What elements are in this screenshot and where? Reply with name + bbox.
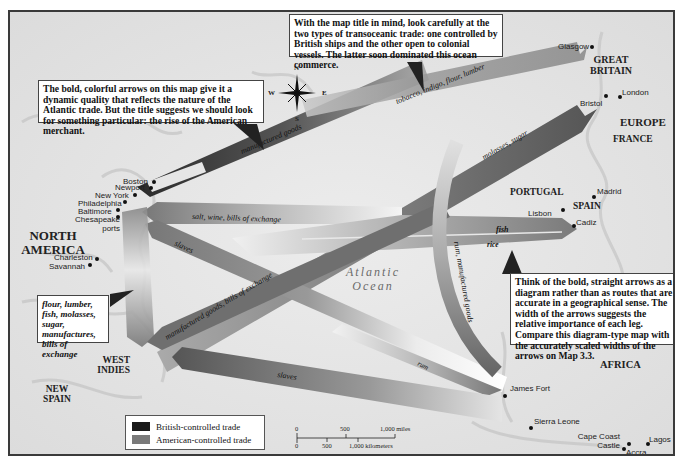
map-frame: manufactured goods tobacco, indigo, flou… — [8, 10, 675, 456]
compass-icon — [272, 68, 322, 118]
callout-right: Think of the bold, straight arrows as a … — [510, 273, 675, 345]
city-accra: Accra — [626, 448, 646, 456]
map-canvas: manufactured goods tobacco, indigo, flou… — [10, 12, 675, 456]
region-west-indies: West Indies — [82, 356, 130, 376]
legend-label-american: American-controlled trade — [156, 435, 251, 445]
compass-east-label: E — [322, 89, 327, 97]
city-james-fort: James Fort — [510, 384, 550, 393]
region-spain: Spain — [573, 202, 601, 212]
city-glasgow: Glasgow — [558, 42, 589, 51]
region-atlantic-ocean: Atlantic Ocean — [328, 265, 418, 293]
callout-west-indies-goods: flour, lumber, fish, molasses, sugar, ma… — [37, 295, 109, 343]
city-sierra-leone: Sierra Leone — [534, 417, 580, 426]
region-africa: Africa — [600, 359, 641, 370]
city-lagos: Lagos — [649, 435, 671, 444]
city-dot — [133, 193, 137, 197]
city-charleston: Charleston — [54, 253, 93, 262]
region-europe: Europe — [620, 117, 666, 129]
city-dot — [561, 208, 565, 212]
scale-miles-0: 0 — [295, 425, 298, 432]
city-dot — [572, 224, 576, 228]
city-lisbon: Lisbon — [528, 209, 552, 218]
scale-miles-1000: 1,000 miles — [380, 425, 410, 432]
city-dot — [95, 257, 99, 261]
city-dot — [503, 394, 507, 398]
callout-top-left: The bold, colorful arrows on this map gi… — [38, 80, 264, 123]
city-cadiz: Cadiz — [576, 218, 596, 227]
city-dot — [604, 94, 608, 98]
city-dot — [116, 208, 120, 212]
region-france: France — [613, 135, 653, 145]
city-london: London — [622, 88, 649, 97]
city-cape-coast-castle: Cape Coast Castle — [564, 432, 620, 450]
british-swatch-icon — [132, 422, 150, 431]
region-great-britain: Great Britain — [581, 55, 641, 76]
american-swatch-icon — [132, 435, 150, 444]
city-dot — [618, 95, 622, 99]
callout-top-center: With the map title in mind, look careful… — [289, 14, 503, 57]
legend-row-british: British-controlled trade — [132, 420, 258, 433]
svg-text:fish: fish — [496, 225, 509, 234]
map-legend: British-controlled trade American-contro… — [125, 415, 265, 450]
city-dot — [592, 195, 596, 199]
city-dot — [590, 45, 594, 49]
legend-row-american: American-controlled trade — [132, 433, 258, 446]
city-bristol: Bristol — [580, 99, 602, 108]
scale-km-1000: 1,000 kilometers — [349, 442, 393, 449]
city-dot — [627, 442, 631, 446]
city-dot — [116, 215, 120, 219]
scale-km-0: 0 — [295, 442, 298, 449]
region-portugal: Portugal — [510, 188, 564, 198]
compass-south-label: S — [295, 115, 299, 123]
city-dot — [88, 263, 92, 267]
scale-bar: 0 500 1,000 miles 0 500 1,000 kilometers — [295, 426, 420, 450]
city-dot — [152, 180, 156, 184]
city-dot — [149, 186, 153, 190]
compass-rose: N S W E — [272, 68, 322, 118]
city-savannah: Savannah — [49, 262, 85, 271]
scale-miles-500: 500 — [340, 425, 350, 432]
compass-north-label: N — [294, 64, 299, 72]
legend-label-british: British-controlled trade — [156, 422, 240, 432]
scale-km-500: 500 — [322, 442, 332, 449]
city-madrid: Madrid — [597, 187, 621, 196]
compass-west-label: W — [268, 89, 275, 97]
city-dot — [123, 200, 127, 204]
city-chesapeake-ports: Chesapeake ports — [70, 215, 120, 233]
city-dot — [529, 426, 533, 430]
region-new-spain: New Spain — [32, 385, 82, 405]
svg-text:rice: rice — [487, 240, 499, 249]
